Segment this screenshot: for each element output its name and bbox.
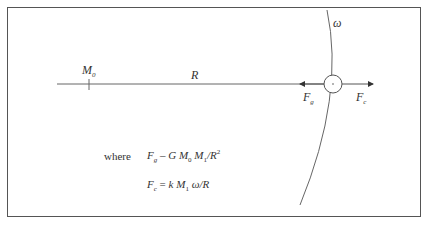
orbit-arc bbox=[300, 10, 332, 205]
where-label: where bbox=[104, 150, 131, 162]
mass0-label: M0 bbox=[82, 64, 96, 79]
force-g-label: Fg bbox=[303, 91, 314, 106]
radius-label: R bbox=[191, 69, 198, 81]
formula-centrifugal: Fc = k M1 ω/R bbox=[147, 178, 209, 193]
orbit-diagram bbox=[0, 0, 430, 225]
force-c-label: Fc bbox=[356, 91, 366, 106]
formula-gravity: Fg – G M0 M1/R2 bbox=[147, 148, 220, 164]
omega-label: ω bbox=[333, 17, 341, 29]
body-center-dot bbox=[332, 83, 334, 85]
